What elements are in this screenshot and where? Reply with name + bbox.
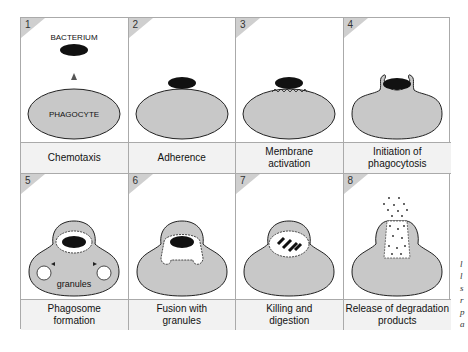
step-number-badge: 2 <box>129 18 155 40</box>
step-caption: Membrane activation <box>236 142 343 173</box>
step-caption: Chemotaxis <box>21 142 128 173</box>
phagocyte-label: PHAGOCYTE <box>49 110 99 119</box>
step-3-panel: 3 Membrane activation <box>236 18 344 174</box>
step-caption: Killing and digestion <box>236 299 343 330</box>
step-caption: Release of degradation products <box>344 299 452 330</box>
step-5-panel: granules 5 Phagosome formation <box>21 174 129 330</box>
cropped-side-text: l l s r p a <box>460 258 465 330</box>
step-number-badge: 5 <box>21 174 47 196</box>
granules-label: granules <box>57 279 92 289</box>
step-4-panel: 4 Initiation of phagocytosis <box>344 18 452 174</box>
bacterium-label: BACTERIUM <box>50 33 97 42</box>
step-number-badge: 4 <box>344 18 370 40</box>
phagocytosis-diagram: BACTERIUM PHAGOCYTE 1 Chemotaxis 2 Adher… <box>20 17 450 329</box>
step-caption: Phagosome formation <box>21 299 128 330</box>
step-7-panel: 7 Killing and digestion <box>236 174 344 330</box>
step-2-panel: 2 Adherence <box>129 18 237 174</box>
step-number-badge: 6 <box>129 174 155 196</box>
step-caption: Adherence <box>129 142 236 173</box>
step-6-panel: 6 Fusion with granules <box>129 174 237 330</box>
step-number-badge: 3 <box>236 18 262 40</box>
step-8-panel: 8 Release of degradation products <box>344 174 452 330</box>
step-number-badge: 1 <box>21 18 47 40</box>
step-caption: Fusion with granules <box>129 299 236 330</box>
step-caption: Initiation of phagocytosis <box>344 142 452 173</box>
step-1-panel: BACTERIUM PHAGOCYTE 1 Chemotaxis <box>21 18 129 174</box>
step-number-badge: 7 <box>236 174 262 196</box>
step-number-badge: 8 <box>344 174 370 196</box>
